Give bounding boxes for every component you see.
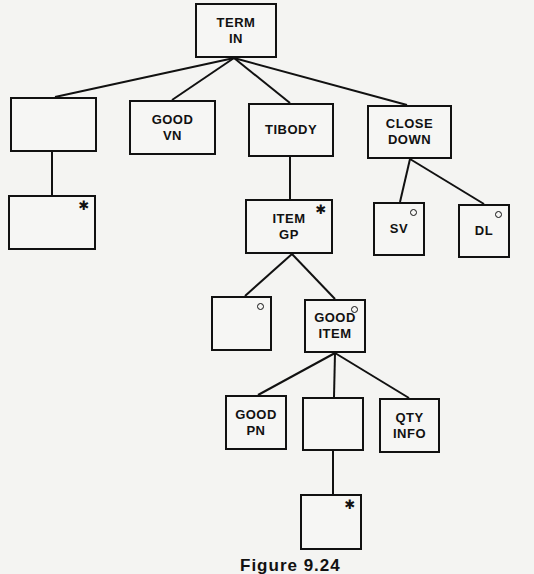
figure-caption: Figure 9.24 bbox=[240, 556, 341, 574]
selection-circle-icon bbox=[410, 209, 417, 216]
iteration-asterisk-icon: ✱ bbox=[79, 199, 90, 212]
node-label: GOOD ITEM bbox=[314, 310, 356, 342]
node-label: GOOD VN bbox=[152, 112, 194, 144]
node-close-down: CLOSE DOWN bbox=[367, 105, 452, 159]
node-good-vn: GOOD VN bbox=[129, 100, 216, 155]
node-blank-iter-1: ✱ bbox=[8, 195, 96, 250]
selection-circle-icon bbox=[257, 303, 264, 310]
edge-close-down-to-sv bbox=[400, 159, 410, 202]
node-qty-info: QTY INFO bbox=[379, 398, 440, 453]
edge-term-in-to-close-down bbox=[234, 58, 407, 105]
node-label: SV bbox=[390, 221, 408, 237]
jackson-structure-diagram: TERM INGOOD VNTIBODYCLOSE DOWN✱ITEM GP✱S… bbox=[0, 0, 534, 574]
node-label: CLOSE DOWN bbox=[386, 116, 433, 148]
edge-item-gp-to-blank-sel-1 bbox=[245, 254, 292, 296]
edge-term-in-to-blank-1 bbox=[55, 58, 234, 97]
node-label: ITEM GP bbox=[272, 211, 305, 243]
edge-close-down-to-dl bbox=[410, 159, 484, 204]
edge-good-item-to-blank-2 bbox=[334, 353, 335, 397]
node-label: TERM IN bbox=[217, 15, 256, 47]
edge-good-item-to-qty-info bbox=[335, 353, 409, 398]
node-blank-1 bbox=[10, 97, 97, 152]
edge-item-gp-to-good-item bbox=[292, 254, 335, 299]
node-tibody: TIBODY bbox=[248, 103, 334, 157]
node-label: DL bbox=[475, 223, 493, 239]
iteration-asterisk-icon: ✱ bbox=[316, 203, 327, 216]
iteration-asterisk-icon: ✱ bbox=[345, 498, 356, 511]
node-blank-sel-1 bbox=[211, 296, 272, 351]
selection-circle-icon bbox=[351, 306, 358, 313]
node-good-item: GOOD ITEM bbox=[304, 299, 366, 353]
edge-good-item-to-good-pn bbox=[258, 353, 335, 395]
node-item-gp: ITEM GP✱ bbox=[245, 199, 333, 254]
node-good-pn: GOOD PN bbox=[225, 395, 287, 450]
node-label: QTY INFO bbox=[393, 410, 426, 442]
node-label: TIBODY bbox=[265, 122, 317, 138]
node-term-in: TERM IN bbox=[195, 3, 277, 58]
node-blank-iter-2: ✱ bbox=[300, 494, 362, 550]
node-dl: DL bbox=[458, 204, 510, 258]
selection-circle-icon bbox=[495, 211, 502, 218]
node-sv: SV bbox=[373, 202, 425, 256]
node-blank-2 bbox=[302, 397, 364, 451]
node-label: GOOD PN bbox=[235, 407, 277, 439]
connector-lines bbox=[0, 0, 534, 574]
